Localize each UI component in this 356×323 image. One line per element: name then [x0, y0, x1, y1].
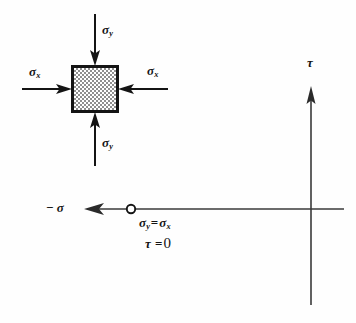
point-annotation-sigma: σy=σx [139, 216, 170, 229]
point-annotation-tau: τ =0 [145, 236, 171, 251]
negative-sigma-axis-label: − σ [46, 201, 64, 214]
sigma-x-right-label: σx [147, 64, 158, 77]
sigma-y-bottom-arrow [90, 112, 100, 166]
mohr-point-marker [127, 205, 135, 213]
tau-axis-label: τ [307, 56, 313, 69]
diagram-canvas [0, 0, 356, 323]
sigma-axis-line [84, 203, 344, 215]
stress-element-square [73, 67, 118, 112]
tau-axis-line [307, 86, 316, 305]
sigma-x-left-arrow [22, 84, 72, 94]
sigma-y-top-arrow [90, 14, 100, 66]
stress-diagram-figure: σy σy σx σx τ − σ σy=σx τ =0 [0, 0, 356, 323]
sigma-y-top-label: σy [102, 23, 113, 36]
sigma-x-right-arrow [118, 84, 168, 94]
stress-element-group [73, 67, 118, 112]
sigma-x-left-label: σx [29, 65, 40, 78]
sigma-y-bottom-label: σy [102, 136, 113, 149]
